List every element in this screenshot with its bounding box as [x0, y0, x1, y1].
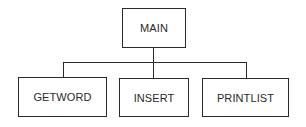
node-printlist: PRINTLIST — [202, 78, 289, 117]
node-main: MAIN — [122, 8, 186, 48]
node-main-label: MAIN — [140, 22, 168, 34]
node-insert-label: INSERT — [134, 92, 175, 104]
connector-printlist — [246, 62, 247, 78]
connector-getword — [63, 62, 64, 78]
connector-horizontal-bus — [63, 62, 247, 63]
node-getword-label: GETWORD — [33, 91, 91, 103]
node-getword: GETWORD — [18, 77, 107, 117]
node-insert: INSERT — [119, 78, 189, 117]
node-printlist-label: PRINTLIST — [217, 92, 274, 104]
